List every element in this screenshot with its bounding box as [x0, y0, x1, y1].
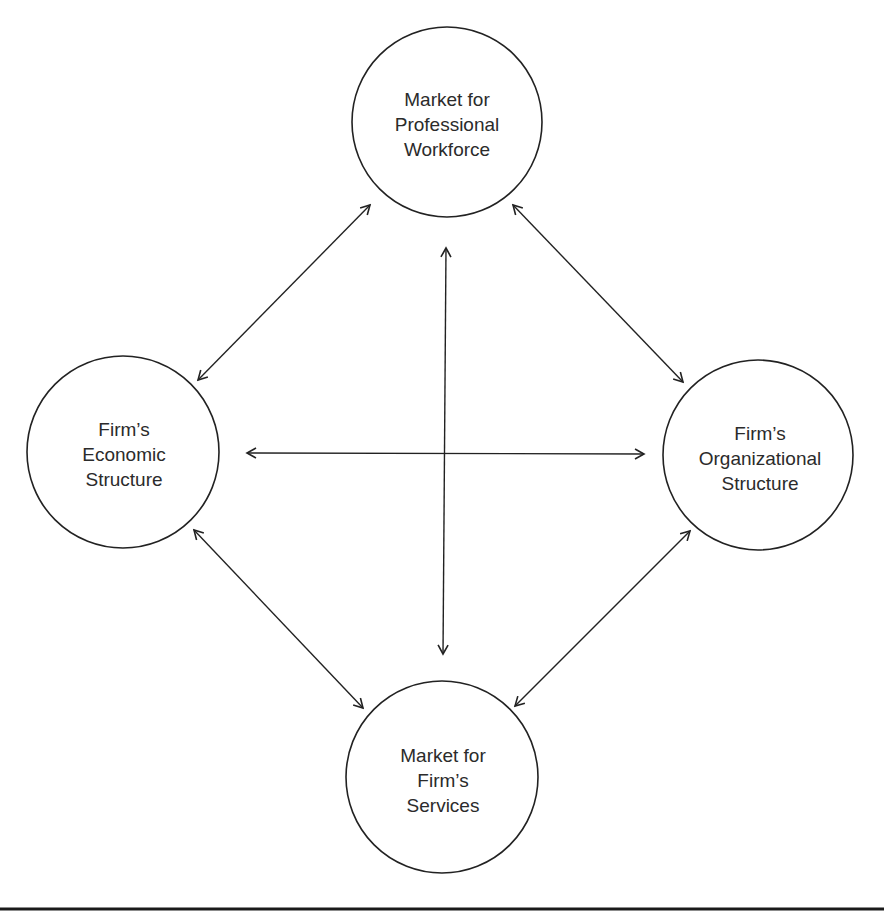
node-firms-economic-structure: Firm’s Economic Structure [27, 356, 219, 548]
node-firms-organizational-structure: Firm’s Organizational Structure [663, 360, 853, 550]
node-label-line: Workforce [404, 139, 490, 160]
arrow-workforce-organizational [513, 205, 683, 382]
arrow-organizational-services [515, 531, 690, 706]
node-market-professional-workforce: Market for Professional Workforce [352, 27, 542, 217]
node-label-line: Market for [404, 89, 490, 110]
node-label-line: Structure [85, 469, 162, 490]
node-label-line: Firm’s [98, 419, 149, 440]
relationship-diagram: Market for Professional Workforce Firm’s… [0, 0, 884, 914]
node-label-line: Market for [400, 745, 486, 766]
arrow-workforce-services [443, 248, 446, 654]
arrow-economic-organizational [247, 453, 644, 454]
node-label-line: Structure [721, 473, 798, 494]
node-label-line: Firm’s [734, 423, 785, 444]
node-label-line: Services [407, 795, 480, 816]
arrow-economic-workforce [198, 205, 370, 380]
node-label-line: Professional [395, 114, 500, 135]
arrow-economic-services [194, 530, 363, 708]
node-label-line: Economic [82, 444, 165, 465]
node-market-firms-services: Market for Firm’s Services [346, 681, 538, 873]
node-label-line: Firm’s [417, 770, 468, 791]
node-label-line: Organizational [699, 448, 822, 469]
